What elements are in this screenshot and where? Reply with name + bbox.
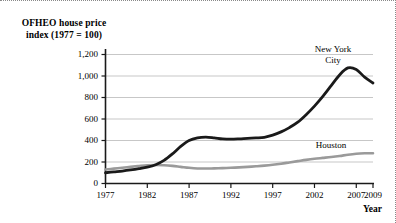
chart-figure: OFHEO house price index (1977 = 100) 020…	[0, 0, 396, 223]
series-label-houston: Houston	[300, 140, 362, 151]
plot-area	[0, 1, 396, 223]
y-axis-tick-label: 1,000	[40, 72, 98, 81]
y-axis-tick-label: 400	[40, 136, 98, 145]
y-axis-tick-label: 800	[40, 93, 98, 102]
y-axis-tick-label: 600	[40, 115, 98, 124]
x-axis-tick-label: 1982	[127, 191, 167, 200]
y-axis-tick-label: 0	[40, 179, 98, 188]
y-axis-tick-label: 200	[40, 158, 98, 167]
x-axis-tick-label: 1977	[86, 191, 126, 200]
series-label-nyc-line-1: New York	[300, 44, 366, 55]
x-axis-tick-label: 2002	[294, 191, 334, 200]
x-axis-tick-label: 1997	[253, 191, 293, 200]
x-axis-tick-label: 1992	[211, 191, 251, 200]
series-label-nyc-line-2: City	[300, 55, 366, 66]
x-axis-title: Year	[363, 204, 382, 214]
y-axis-tick-label: 1,200	[40, 50, 98, 59]
x-axis-tick-label: 2009	[353, 191, 393, 200]
x-axis-tick-label: 1987	[169, 191, 209, 200]
series-label-new-york-city: New York City	[300, 44, 366, 66]
